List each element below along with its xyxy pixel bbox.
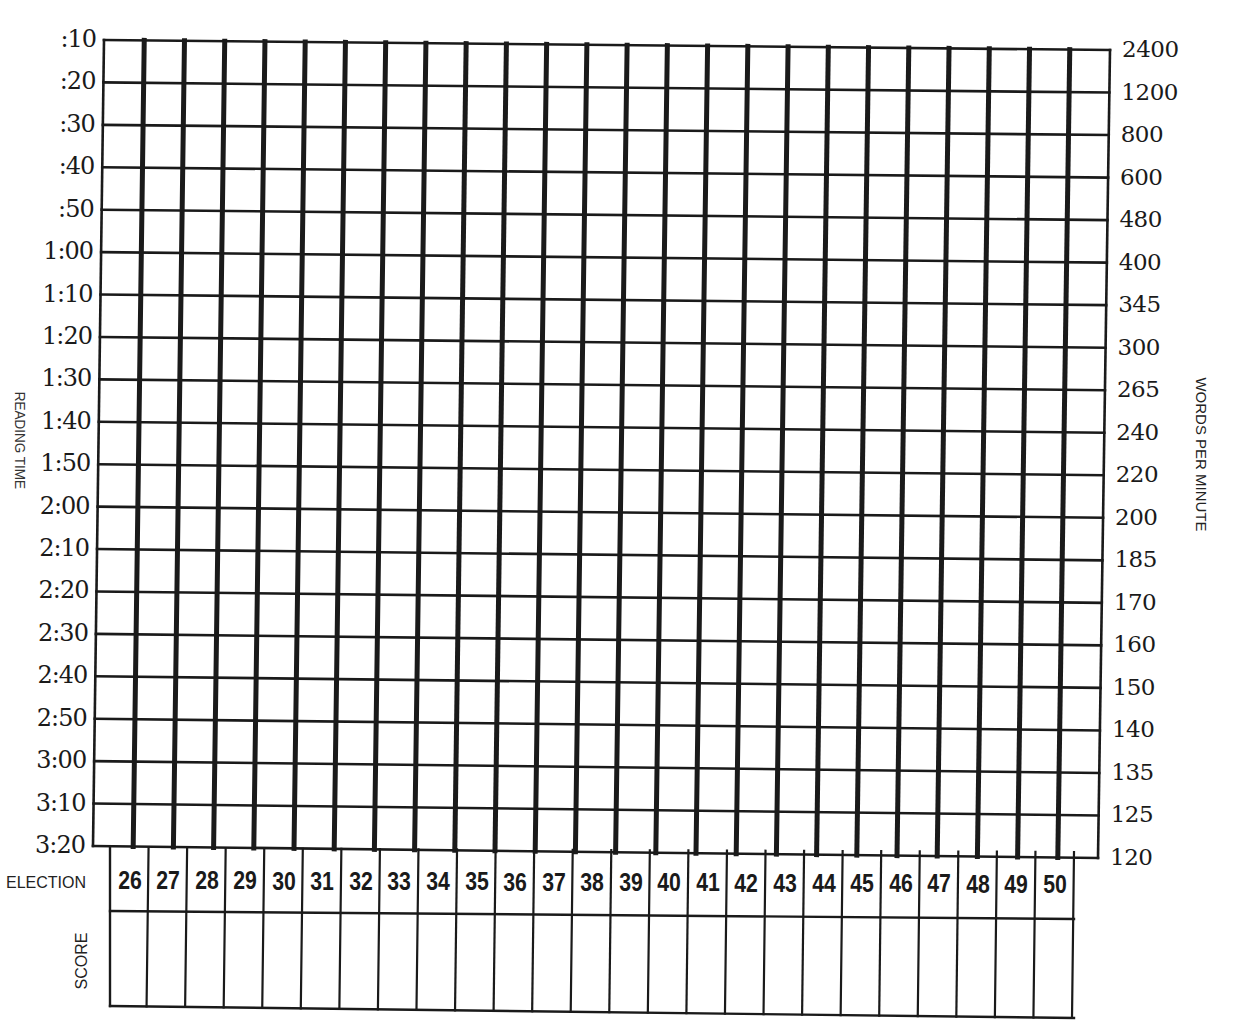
score-cell[interactable]	[691, 922, 724, 1009]
selection-number: 32	[345, 869, 377, 894]
selection-number: 26	[113, 868, 145, 893]
words-per-minute-axis-title: WORDS PER MINUTE	[1193, 370, 1210, 540]
selection-number: 43	[769, 871, 801, 896]
words-per-minute-tick: 200	[1115, 506, 1157, 529]
score-cell[interactable]	[1038, 925, 1071, 1012]
score-cell[interactable]	[614, 921, 647, 1008]
words-per-minute-tick: 240	[1116, 421, 1158, 444]
selection-number: 42	[730, 871, 762, 896]
reading-time-tick: 3:20	[0, 833, 85, 857]
selection-number: 50	[1039, 872, 1071, 897]
selection-number: 30	[268, 869, 300, 894]
selection-number: 40	[653, 870, 685, 895]
selection-number: 44	[807, 871, 839, 896]
reading-time-tick: 3:10	[0, 791, 86, 815]
reading-time-tick: 2:40	[0, 663, 87, 687]
words-per-minute-tick: 2400	[1122, 38, 1179, 61]
score-cell[interactable]	[537, 921, 570, 1008]
score-cell[interactable]	[113, 917, 146, 1004]
score-cell[interactable]	[152, 917, 185, 1004]
selection-number: 36	[499, 870, 531, 895]
score-cell[interactable]	[190, 918, 223, 1005]
reading-time-tick: :40	[2, 154, 94, 178]
reading-time-tick: :50	[2, 197, 94, 221]
words-per-minute-tick: 480	[1119, 208, 1161, 231]
words-per-minute-tick: 135	[1111, 761, 1153, 784]
selection-number: 28	[190, 868, 222, 893]
score-cell[interactable]	[421, 920, 454, 1007]
score-cell[interactable]	[769, 922, 802, 1009]
selection-number: 34	[422, 869, 454, 894]
selection-number: 46	[885, 871, 917, 896]
score-cell[interactable]	[807, 923, 840, 1010]
words-per-minute-tick: 160	[1113, 633, 1155, 656]
selection-number: 33	[383, 869, 415, 894]
reading-time-tick: 2:20	[0, 578, 88, 602]
words-per-minute-tick: 120	[1110, 846, 1152, 869]
words-per-minute-tick: 140	[1112, 718, 1154, 741]
reading-time-tick: 1:20	[0, 324, 92, 348]
reading-time-tick: :10	[4, 27, 96, 51]
reading-time-tick: 2:30	[0, 621, 88, 645]
selection-number: 48	[962, 872, 994, 897]
selection-number: 47	[923, 871, 955, 896]
words-per-minute-tick: 345	[1118, 293, 1160, 316]
score-cell[interactable]	[306, 919, 339, 1006]
score-cell[interactable]	[1000, 924, 1033, 1011]
words-per-minute-tick: 125	[1111, 803, 1153, 826]
score-cell[interactable]	[460, 920, 493, 1007]
score-cell[interactable]	[383, 919, 416, 1006]
reading-time-tick: 2:00	[0, 494, 90, 518]
reading-time-tick: 2:50	[0, 706, 87, 730]
score-cell[interactable]	[576, 921, 609, 1008]
score-cell[interactable]	[730, 922, 763, 1009]
selection-number: 49	[1000, 872, 1032, 897]
selection-number: 27	[152, 868, 184, 893]
words-per-minute-tick: 400	[1119, 251, 1161, 274]
score-cell[interactable]	[267, 918, 300, 1005]
reading-time-tick: 2:10	[0, 536, 89, 560]
words-per-minute-tick: 600	[1120, 166, 1162, 189]
score-cell[interactable]	[961, 924, 994, 1011]
selection-number: 45	[846, 871, 878, 896]
words-per-minute-tick: 185	[1114, 548, 1156, 571]
reading-time-axis-title: READING TIME	[12, 387, 29, 495]
selection-number: 37	[538, 870, 570, 895]
score-cell[interactable]	[653, 921, 686, 1008]
selection-number: 39	[615, 870, 647, 895]
selection-number: 35	[460, 869, 492, 894]
words-per-minute-tick: 150	[1113, 676, 1155, 699]
words-per-minute-tick: 1200	[1121, 81, 1178, 104]
reading-time-tick: 1:00	[1, 239, 93, 263]
words-per-minute-tick: 300	[1118, 336, 1160, 359]
words-per-minute-tick: 220	[1116, 463, 1158, 486]
score-cell[interactable]	[344, 919, 377, 1006]
words-per-minute-tick: 265	[1117, 378, 1159, 401]
reading-time-tick: :30	[3, 112, 95, 136]
score-cell[interactable]	[846, 923, 879, 1010]
words-per-minute-tick: 170	[1114, 591, 1156, 614]
score-cell[interactable]	[884, 923, 917, 1010]
score-cell[interactable]	[229, 918, 262, 1005]
words-per-minute-tick: 800	[1121, 123, 1163, 146]
selection-number: 41	[692, 870, 724, 895]
reading-time-tick: 1:10	[1, 282, 93, 306]
score-cell[interactable]	[923, 924, 956, 1011]
selection-number: 38	[576, 870, 608, 895]
selection-row-label: ELECTION	[6, 874, 86, 892]
score-cell[interactable]	[499, 920, 532, 1007]
selection-number: 29	[229, 868, 261, 893]
score-row-label: SCORE	[73, 931, 91, 991]
selection-number: 31	[306, 869, 338, 894]
reading-time-tick: 3:00	[0, 748, 86, 772]
reading-time-tick: :20	[3, 69, 95, 93]
